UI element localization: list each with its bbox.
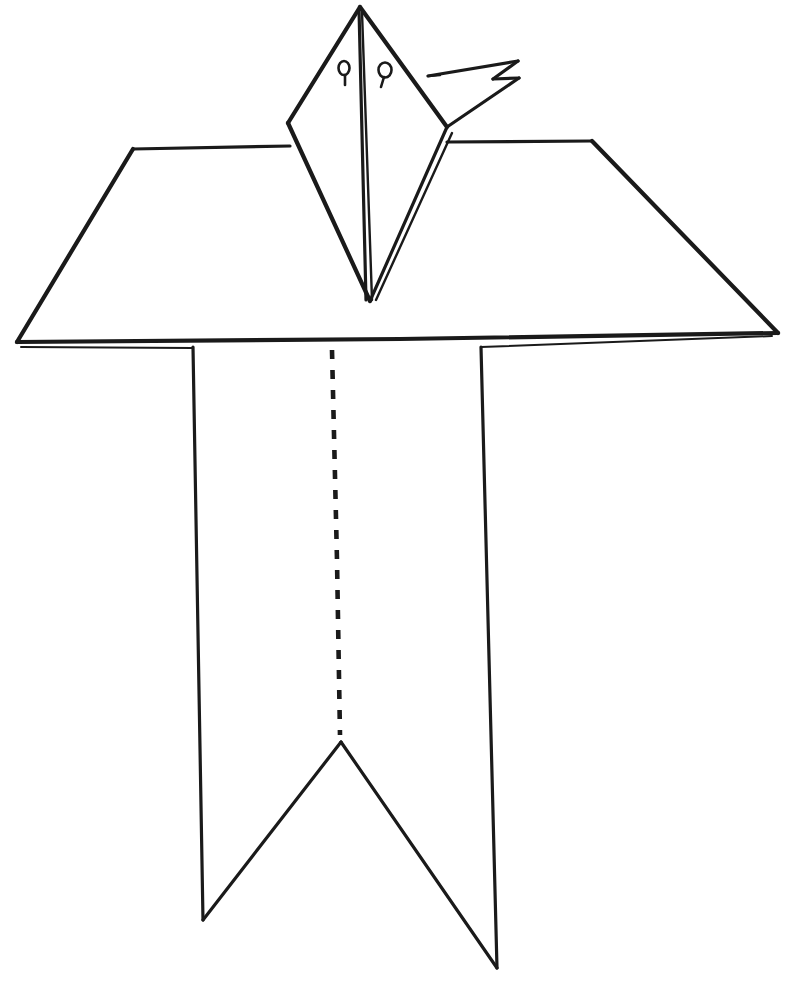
- sheet-fold-thickness-left: [21, 347, 193, 348]
- beak-root-connector: [428, 75, 440, 76]
- paper-background: [0, 0, 788, 983]
- sheet-top-right-horizontal-edge: [447, 141, 592, 142]
- origami-diagram-canvas: [0, 0, 788, 983]
- origami-diagram-figure: Line drawing contains no labels or text.: [0, 0, 788, 983]
